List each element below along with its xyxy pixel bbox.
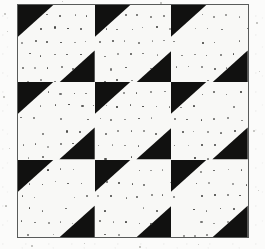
upper-left-triangle xyxy=(95,82,130,114)
scan-fleck xyxy=(4,13,6,15)
upper-left-triangle xyxy=(18,5,53,37)
upper-left-triangle xyxy=(171,82,206,114)
lower-right-triangle xyxy=(136,51,171,83)
scan-fleck xyxy=(31,245,33,247)
tile-shape xyxy=(18,82,95,159)
tile-r2c3 xyxy=(171,82,248,159)
scan-fleck xyxy=(84,243,85,244)
upper-left-triangle xyxy=(95,160,130,192)
lower-right-triangle xyxy=(213,51,248,83)
lower-right-triangle xyxy=(213,128,248,160)
lower-right-triangle xyxy=(136,205,171,237)
tile-shape xyxy=(171,160,248,237)
upper-left-triangle xyxy=(171,5,206,37)
scan-fleck xyxy=(3,96,5,98)
scan-fleck xyxy=(62,1,63,2)
lower-right-triangle xyxy=(59,205,94,237)
tile-r2c1 xyxy=(18,82,95,159)
lower-right-triangle xyxy=(136,128,171,160)
tile-shape xyxy=(95,5,172,82)
scan-fleck xyxy=(139,246,141,248)
upper-left-triangle xyxy=(18,160,53,192)
scan-fleck xyxy=(258,190,259,191)
tile-shape xyxy=(171,82,248,159)
tile-shape xyxy=(95,160,172,237)
tile-r3c2 xyxy=(95,160,172,237)
tile-shape xyxy=(95,82,172,159)
tile-r3c3 xyxy=(171,160,248,237)
tile-r2c2 xyxy=(95,82,172,159)
scan-fleck xyxy=(9,148,10,149)
tile-shape xyxy=(18,5,95,82)
tile-shape xyxy=(171,5,248,82)
tile-r1c3 xyxy=(171,5,248,82)
scan-fleck xyxy=(7,31,8,32)
scan-fleck xyxy=(253,130,255,132)
lower-right-triangle xyxy=(59,128,94,160)
upper-left-triangle xyxy=(95,5,130,37)
figure-frame xyxy=(17,4,249,238)
upper-left-triangle xyxy=(18,82,53,114)
tile-r3c1 xyxy=(18,160,95,237)
lower-right-triangle xyxy=(59,51,94,83)
upper-left-triangle xyxy=(171,160,206,192)
tile-r1c1 xyxy=(18,5,95,82)
tile-r1c2 xyxy=(95,5,172,82)
tile-grid xyxy=(18,5,248,237)
lower-right-triangle xyxy=(213,205,248,237)
scan-fleck xyxy=(5,205,7,207)
scan-fleck xyxy=(198,244,199,245)
scan-fleck xyxy=(256,22,258,24)
figure-page xyxy=(0,0,265,249)
tile-shape xyxy=(18,160,95,237)
scan-fleck xyxy=(259,71,260,72)
scan-fleck xyxy=(160,2,162,4)
